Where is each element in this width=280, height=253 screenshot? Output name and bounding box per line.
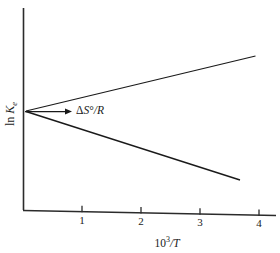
x-axis-title-base: 10 (154, 237, 166, 249)
chart-figure: 1 2 3 4 103/T ln Ke ΔS°/R (0, 0, 280, 253)
y-axis-title-subscript: e (9, 102, 19, 106)
x-tick-label-1: 1 (79, 215, 85, 226)
x-axis-title-denominator: /T (170, 237, 180, 249)
x-axis-title: 103/T (154, 236, 179, 249)
over-gas-constant: /R (94, 104, 104, 116)
y-axis-title-prefix: ln (3, 114, 17, 126)
y-axis-title-symbol: K (3, 106, 17, 114)
y-axis-title: ln Ke (4, 102, 19, 126)
data-line-positive-slope (26, 56, 256, 111)
x-tick-label-4: 4 (256, 218, 262, 229)
x-tick-label-3: 3 (197, 217, 203, 228)
entropy-annotation-label: ΔS°/R (76, 105, 104, 117)
x-tick-label-2: 2 (138, 216, 144, 227)
data-line-negative-slope (26, 112, 240, 181)
x-axis (23, 211, 276, 216)
